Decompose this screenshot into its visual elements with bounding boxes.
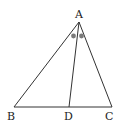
label-a: A: [74, 8, 84, 21]
angle-mark-bad: [71, 34, 76, 39]
segment-ac: [79, 22, 112, 107]
label-c: C: [105, 110, 113, 122]
segment-ab: [14, 22, 79, 107]
angle-mark-dac: [79, 34, 84, 39]
triangle-diagram: A B D C: [0, 0, 115, 122]
label-b: B: [7, 110, 15, 122]
label-d: D: [64, 110, 73, 122]
